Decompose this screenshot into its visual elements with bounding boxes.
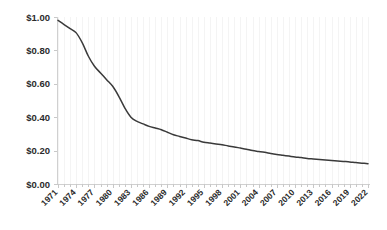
x-axis-label: 1998 xyxy=(203,187,224,208)
chart-container: $1.00$0.80$0.60$0.40$0.20$0.00 197119741… xyxy=(0,0,387,230)
line-chart: $1.00$0.80$0.60$0.40$0.20$0.00 197119741… xyxy=(0,0,387,230)
x-axis-label: 1971 xyxy=(39,187,60,208)
cost-trend-line xyxy=(58,20,368,163)
x-axis-label: 1974 xyxy=(57,187,78,208)
y-axis-label: $0.60 xyxy=(26,78,50,89)
x-axis-label: 2013 xyxy=(294,187,315,208)
x-axis-label: 2016 xyxy=(312,187,333,208)
x-axis-label: 1992 xyxy=(167,187,188,208)
y-axis-label: $0.40 xyxy=(26,112,50,123)
x-axis-label: 1983 xyxy=(112,187,133,208)
x-axis-label: 1995 xyxy=(185,187,206,208)
x-axis-label: 1989 xyxy=(148,187,169,208)
x-axis-label: 2022 xyxy=(349,187,370,208)
x-axis-label: 2001 xyxy=(221,187,242,208)
y-axis-label: $1.00 xyxy=(26,12,50,23)
y-axis-label: $0.00 xyxy=(26,179,50,190)
x-axis-label: 1986 xyxy=(130,187,151,208)
y-axis-label: $0.20 xyxy=(26,145,50,156)
x-axis-label: 1977 xyxy=(75,187,96,208)
x-axis-label: 2010 xyxy=(276,187,297,208)
x-axis-labels: 1971197419771980198319861989199219951998… xyxy=(39,187,370,208)
y-axis-labels: $1.00$0.80$0.60$0.40$0.20$0.00 xyxy=(26,12,50,190)
x-axis-label: 2007 xyxy=(258,187,279,208)
x-axis-label: 2004 xyxy=(240,187,261,208)
x-axis-label: 1980 xyxy=(94,187,115,208)
y-axis-label: $0.80 xyxy=(26,45,50,56)
x-axis-label: 2019 xyxy=(331,187,352,208)
